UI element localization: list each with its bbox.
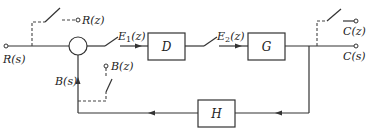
label-c-z: C(z) <box>343 25 366 38</box>
r-z-sampler-switch <box>45 8 60 22</box>
e1-sampler-switch <box>105 37 118 46</box>
e2-arrow-icon <box>235 44 242 49</box>
block-d-label: D <box>161 40 172 54</box>
e2-sampler-switch <box>204 37 217 46</box>
input-terminal-r-s <box>4 44 8 48</box>
block-diagram: R(s) R(z) E1(z) D E2(z) G C(s) C(z) H B(… <box>0 0 366 133</box>
block-h-label: H <box>210 107 222 121</box>
label-r-s: R(s) <box>2 53 26 66</box>
label-e1-z: E1(z) <box>117 30 146 44</box>
c-z-sampler-switch <box>327 9 341 21</box>
feedback-arrow-icon <box>275 111 282 116</box>
block-g-label: G <box>262 40 272 54</box>
label-e2-z: E2(z) <box>216 30 245 44</box>
output-terminal-c-z <box>354 19 358 23</box>
r-z-dashed-branch <box>32 22 45 46</box>
c-z-dashed-branch <box>317 21 327 46</box>
label-c-s: C(s) <box>343 50 366 63</box>
summing-junction <box>69 37 87 55</box>
feedback-arrow-2-icon <box>148 111 155 116</box>
b-z-dashed-branch <box>78 92 106 101</box>
output-terminal-r-z <box>76 18 80 22</box>
b-z-sampler-switch <box>106 79 112 92</box>
label-r-z: R(z) <box>81 14 105 27</box>
output-terminal-b-z <box>104 64 108 68</box>
label-b-s: B(s) <box>54 75 77 88</box>
e1-arrow-icon <box>135 44 142 49</box>
output-terminal-c-s <box>354 44 358 48</box>
label-b-z: B(z) <box>110 60 133 73</box>
